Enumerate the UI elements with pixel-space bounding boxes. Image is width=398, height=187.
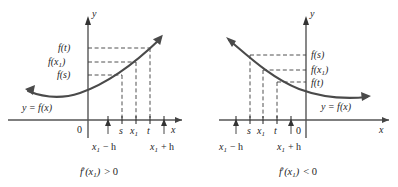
y-axis-label: y <box>91 8 97 19</box>
guide-lines <box>88 48 150 118</box>
panel-decreasing-function: x y 0 y=f(x) f(s) <box>199 0 398 187</box>
function-curve-decreasing <box>226 37 371 101</box>
left-caption: f′(x1)> 0 <box>80 166 118 179</box>
y-axis-label: y <box>309 8 315 19</box>
curve-label-eq: = <box>328 101 334 112</box>
curve-label-arg: (x) <box>340 101 352 113</box>
svg-text:y=f(x): y=f(x) <box>21 102 53 114</box>
origin-label: 0 <box>296 125 301 136</box>
x-tick-label-t: t <box>274 125 277 136</box>
y-label-f-t: f(t) <box>58 42 71 54</box>
y-label-f-s: f(s) <box>57 69 71 81</box>
x-tick-label-x1-minus-h: x1− h <box>91 141 116 154</box>
y-value-labels: f(s) f(x1) f(t) <box>311 49 329 89</box>
y-label-f-x1: f(x1) <box>48 56 66 69</box>
y-value-labels: f(t) f(x1) f(s) <box>48 42 71 81</box>
x-tick-label-s: s <box>247 125 251 136</box>
x-axis-label: x <box>170 124 176 135</box>
x-tick-label-x1-minus-h: x1− h <box>218 141 243 154</box>
x-axis-label: x <box>378 124 384 135</box>
x-tick-label-x1-plus-h: x1+ h <box>276 141 301 154</box>
x-tick-label-x1: x1 <box>129 125 138 138</box>
y-label-f-t: f(t) <box>311 77 324 89</box>
curve-label: y=f(x) <box>21 102 53 114</box>
curve-label-eq: = <box>29 102 35 113</box>
x-tick-label-x1-plus-h: x1+ h <box>149 141 174 154</box>
right-caption: f′(x1)< 0 <box>279 166 317 179</box>
curve-arrow-right-end <box>361 92 371 101</box>
curve-label-y: y <box>21 102 27 113</box>
derivative-sign-figure: x y 0 y=f(x) <box>0 0 398 187</box>
x-tick-label-t: t <box>147 125 150 136</box>
curve-label: y=f(x) <box>320 101 352 113</box>
x-tick-labels: s x1 t x1− h x1+ h <box>218 125 301 154</box>
x-axis <box>8 117 182 123</box>
x-tick-labels: s x1 t x1− h x1+ h <box>91 125 174 154</box>
origin-label: 0 <box>77 124 82 135</box>
curve-label-y: y <box>320 101 326 112</box>
left-panel-canvas: x y 0 y=f(x) <box>0 0 199 187</box>
x-tick-label-x1: x1 <box>256 125 265 138</box>
x-tick-label-s: s <box>119 125 123 136</box>
curve-label-arg: (x) <box>41 102 53 114</box>
right-panel-canvas: x y 0 y=f(x) f(s) <box>199 0 398 187</box>
panel-increasing-function: x y 0 y=f(x) <box>0 0 199 187</box>
y-label-f-x1: f(x1) <box>311 64 329 77</box>
y-label-f-s: f(s) <box>311 49 325 61</box>
function-curve-increasing <box>25 35 163 97</box>
x-axis <box>219 117 389 123</box>
